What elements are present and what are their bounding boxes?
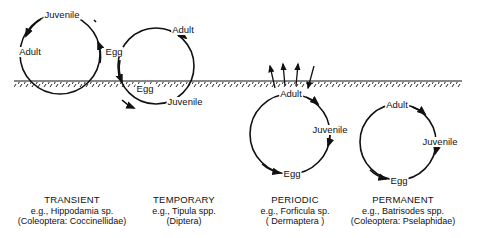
permanent-title: PERMANENT (351, 195, 456, 205)
permanent-taxon: (Coleoptera: Pselaphidae) (351, 216, 456, 226)
periodic-adult-label: Adult (279, 89, 303, 99)
temporary-example: e.g., Tipula spp. (152, 206, 216, 216)
permanent-egg-label: Egg (390, 176, 409, 186)
permanent-juvenile-label: Juvenile (422, 137, 459, 147)
temporary-caption: TEMPORARY e.g., Tipula spp. (Diptera) (152, 195, 216, 226)
temporary-adult-label: Adult (171, 25, 195, 35)
permanent-caption: PERMANENT e.g., Batrisodes spp. (Coleopt… (351, 195, 456, 226)
transient-adult-label: Adult (18, 47, 42, 57)
ground-surface (14, 81, 462, 87)
periodic-taxon: ( Dermaptera ) (260, 216, 329, 226)
transient-title: TRANSIENT (18, 195, 127, 205)
transient-juvenile-label: Juvenile (44, 10, 81, 20)
permanent-adult-label: Adult (385, 100, 409, 110)
temporary-juvenile-label: Juvenile (167, 97, 204, 107)
periodic-egg-label: Egg (283, 169, 302, 179)
transient-example: e.g., Hippodamia sp. (18, 206, 127, 216)
periodic-title: PERIODIC (260, 195, 329, 205)
transient-egg-label: Egg (105, 47, 124, 57)
temporary-title: TEMPORARY (152, 195, 216, 205)
periodic-caption: PERIODIC e.g., Forficula sp. ( Dermapter… (260, 195, 329, 226)
transient-caption: TRANSIENT e.g., Hippodamia sp. (Coleopte… (18, 195, 127, 226)
transient-taxon: (Coleoptera: Coccinellidae) (18, 216, 127, 226)
temporary-taxon: (Diptera) (152, 216, 216, 226)
periodic-example: e.g., Forficula sp. (260, 206, 329, 216)
periodic-juvenile-label: Juvenile (312, 125, 349, 135)
permanent-example: e.g., Batrisodes spp. (351, 206, 456, 216)
temporary-egg-label: Egg (136, 84, 155, 94)
